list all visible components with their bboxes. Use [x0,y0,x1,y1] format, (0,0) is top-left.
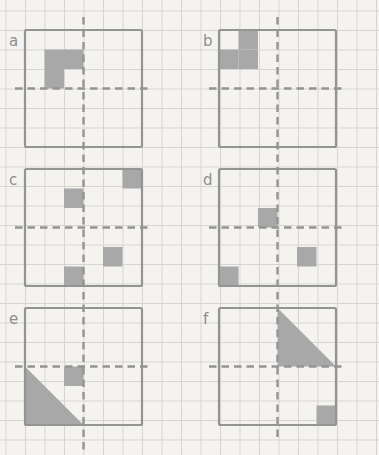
shaded-cell [123,169,143,189]
shaded-cell [219,50,239,70]
shaded-cell [239,50,259,70]
shaded-cell [317,406,337,426]
panel-label: b [203,32,213,50]
panel-c: c [9,169,150,286]
panel-f: f [203,308,344,425]
panel-e: e [9,308,150,425]
shaded-cell [219,267,239,287]
shaded-cell [64,189,84,209]
panel-label: f [203,310,209,328]
shaded-cell [45,69,65,89]
squared-paper: abcdef [0,0,379,455]
panel-b: b [203,30,344,147]
panel-d: d [203,169,344,286]
shaded-cell [64,267,84,287]
panel-label: d [203,171,213,189]
symmetry-worksheet-figure: abcdef [0,0,379,455]
shaded-cell [297,247,317,267]
panel-label: a [9,32,18,50]
shaded-cell [45,50,65,70]
shaded-triangle [278,308,337,367]
panel-label: c [9,171,17,189]
shaded-cell [258,208,278,228]
shaded-cell [239,30,259,50]
shaded-cell [64,367,84,387]
panel-label: e [9,310,18,328]
panel-a: a [9,30,150,147]
shaded-cell [103,247,123,267]
shaded-cell [64,50,84,70]
